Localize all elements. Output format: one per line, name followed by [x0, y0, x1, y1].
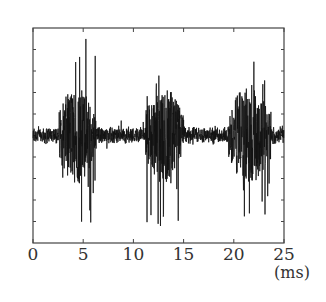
- x-tick-label: 0: [28, 244, 39, 264]
- x-axis-tick-labels: 0510152025: [28, 244, 295, 264]
- x-tick-label: 15: [173, 244, 195, 264]
- signal-waveform: [33, 39, 284, 226]
- waveform-chart: 0510152025 (ms): [0, 0, 326, 302]
- x-tick-label: 25: [273, 244, 295, 264]
- x-axis-unit-label: (ms): [274, 263, 310, 282]
- x-tick-label: 5: [78, 244, 89, 264]
- x-tick-label: 20: [223, 244, 245, 264]
- x-tick-label: 10: [123, 244, 145, 264]
